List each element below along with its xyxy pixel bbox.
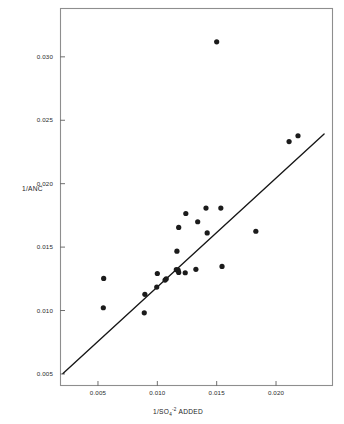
data-point	[183, 270, 188, 275]
data-point	[195, 219, 200, 224]
data-point	[142, 292, 147, 297]
data-point	[142, 310, 147, 315]
data-point	[218, 205, 223, 210]
plot-canvas: 0.0050.0100.0150.0200.0250.030 0.0050.01…	[0, 0, 344, 424]
data-point	[164, 276, 169, 281]
data-point-group	[101, 39, 301, 315]
data-point	[286, 139, 291, 144]
data-point	[295, 133, 300, 138]
x-tick-label: 0.010	[149, 389, 166, 396]
x-tick-label: 0.020	[268, 389, 285, 396]
data-point	[101, 276, 106, 281]
data-point	[155, 271, 160, 276]
scatter-plot-figure: 0.0050.0100.0150.0200.0250.030 0.0050.01…	[0, 0, 344, 424]
data-point	[154, 284, 159, 289]
x-axis-title-base: 1/SO	[153, 408, 169, 415]
data-point	[193, 267, 198, 272]
plot-frame	[61, 9, 333, 386]
data-point	[176, 225, 181, 230]
y-axis-tick-labels: 0.0050.0100.0150.0200.0250.030	[37, 53, 54, 377]
data-point	[174, 249, 179, 254]
y-axis-title: 1/ANC	[22, 185, 43, 192]
y-tick-label: 0.005	[37, 370, 54, 377]
x-axis-title-suffix: ADDED	[177, 408, 203, 415]
x-axis-title: 1/SO4-2 ADDED	[153, 407, 203, 417]
y-tick-label: 0.030	[37, 53, 54, 60]
y-tick-label: 0.025	[37, 116, 54, 123]
data-point	[203, 205, 208, 210]
y-tick-label: 0.015	[37, 243, 54, 250]
data-point	[205, 230, 210, 235]
x-tick-label: 0.005	[90, 389, 107, 396]
data-point	[101, 305, 106, 310]
data-point	[183, 211, 188, 216]
data-point	[219, 264, 224, 269]
x-tick-label: 0.015	[209, 389, 226, 396]
x-axis-title-subscript: 4	[169, 412, 172, 417]
data-point	[176, 270, 181, 275]
data-point	[253, 229, 258, 234]
data-point	[214, 39, 219, 44]
regression-line	[63, 134, 324, 374]
y-tick-label: 0.010	[37, 307, 54, 314]
x-axis-tick-labels: 0.0050.0100.0150.020	[90, 389, 285, 396]
